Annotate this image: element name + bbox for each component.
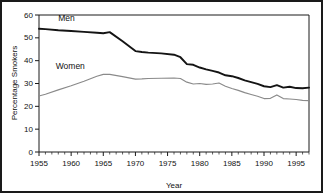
series-label-men: Men	[58, 13, 75, 23]
series-label-women: Women	[56, 61, 85, 71]
y-axis-title: Percentage Smokers	[10, 46, 19, 121]
y-tick-label: 20	[24, 102, 33, 111]
y-tick-label: 50	[24, 33, 33, 42]
x-tick-label: 1965	[94, 159, 112, 168]
axis-lines	[39, 15, 309, 152]
x-tick-label: 1995	[287, 159, 305, 168]
smoking-prevalence-line-chart: 0102030405060 19551960196519701975198019…	[2, 2, 323, 193]
x-tick-label: 1975	[159, 159, 177, 168]
x-tick-label: 1960	[62, 159, 80, 168]
x-axis-title: Year	[166, 181, 183, 190]
series-line-men	[39, 29, 309, 89]
y-tick-label: 0	[29, 148, 34, 157]
y-tick-label: 60	[24, 11, 33, 20]
x-tick-label: 1990	[255, 159, 273, 168]
x-tick-label: 1955	[30, 159, 48, 168]
y-tick-label: 30	[24, 79, 33, 88]
y-axis-tick-labels: 0102030405060	[24, 11, 33, 157]
x-tick-label: 1970	[127, 159, 145, 168]
chart-frame: 0102030405060 19551960196519701975198019…	[0, 0, 323, 193]
y-tick-label: 40	[24, 56, 33, 65]
y-tick-label: 10	[24, 125, 33, 134]
x-tick-label: 1980	[191, 159, 209, 168]
x-tick-label: 1985	[223, 159, 241, 168]
x-axis-tick-labels: 195519601965197019751980198519901995	[30, 159, 305, 168]
y-axis-ticks	[35, 15, 39, 152]
series-annotations: MenWomen	[56, 13, 85, 70]
